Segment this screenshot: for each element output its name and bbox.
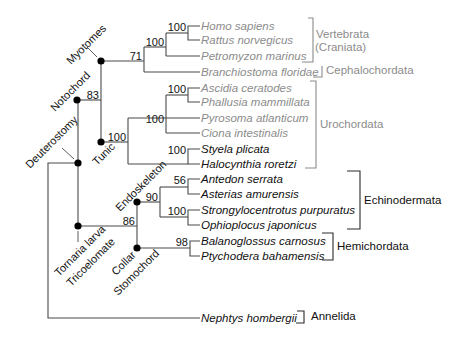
support-hemichordata: 98: [176, 236, 188, 248]
support-ascidia-phallusia: 100: [168, 83, 186, 95]
tip-ascidia-ceratodes: Ascidia ceratodes: [200, 82, 292, 94]
node-labels: Myotomes Notochord Deuterostomy Tunic En…: [23, 22, 169, 298]
tip-asterias-amurensis: Asterias amurensis: [200, 188, 299, 200]
bracket-urochordata: [305, 81, 316, 168]
support-styela-halocynthia: 100: [168, 144, 186, 156]
tip-ciona-intestinalis: Ciona intestinalis: [201, 127, 288, 139]
label-tunic: Tunic: [90, 140, 118, 168]
phylogenetic-tree: 100 100 71 83 100 100 100 100 56 90 100 …: [0, 0, 453, 340]
group-hemichordata: Hemichordata: [337, 240, 409, 252]
label-notochord: Notochord: [48, 69, 92, 113]
node-myotomes-dot: [97, 57, 104, 64]
support-antedon-asterias: 56: [174, 174, 186, 186]
tip-antedon-serrata: Antedon serrata: [200, 173, 283, 185]
tip-branchiostoma-floridae: Branchiostoma floridae: [201, 66, 319, 78]
support-notochord: 83: [87, 89, 99, 101]
group-cephalochordata: Cephalochordata: [326, 64, 414, 76]
group-urochordata: Urochordata: [320, 118, 384, 130]
support-uro-inner: 100: [146, 113, 164, 125]
group-echinodermata: Echinodermata: [364, 194, 442, 206]
node-notochord-dot: [73, 96, 80, 103]
branch-styela-halocynthia: [188, 149, 200, 164]
support-echinodermata: 90: [146, 191, 158, 203]
tip-strongylocentrotus-purpuratus: Strongylocentrotus purpuratus: [201, 204, 355, 216]
tip-homo-sapiens: Homo sapiens: [201, 20, 275, 32]
tip-ptychodera-bahamensis: Ptychodera bahamensis: [201, 250, 325, 262]
tip-ophioplocus-japonicus: Ophioplocus japonicus: [201, 219, 317, 231]
group-vertebrata: Vertebrata: [316, 28, 370, 40]
bracket-echinodermata: [347, 171, 360, 229]
tip-rattus-norvegicus: Rattus norvegicus: [201, 34, 293, 46]
tip-halocynthia-roretzi: Halocynthia roretzi: [201, 158, 297, 170]
node-collar-dot: [133, 244, 140, 251]
support-urochordata: 100: [108, 131, 126, 143]
tip-balanoglossus-carnosus: Balanoglossus carnosus: [201, 235, 326, 247]
branch-antedon-asterias: [188, 179, 200, 194]
branch-homo-rattus: [188, 26, 200, 40]
branch-strongylo-ophio: [188, 210, 200, 225]
label-deuterostomy: Deuterostomy: [23, 113, 80, 170]
tip-nephtys-hombergii: Nephtys hombergii: [201, 312, 297, 324]
branch-balano-ptycho: [190, 241, 200, 256]
group-annelida: Annelida: [311, 310, 356, 322]
tip-pyrosoma-atlanticum: Pyrosoma atlanticum: [201, 112, 309, 124]
branch-ascidia-phallusia: [188, 88, 200, 102]
group-craniata: (Craniata): [315, 41, 366, 53]
support-homo-rattus: 100: [168, 21, 186, 33]
node-tornaria-dot: [74, 222, 81, 229]
tip-petromyzon-marinus: Petromyzon marinus: [201, 50, 307, 62]
support-strongylo-ophio: 100: [168, 205, 186, 217]
node-deuterostomy-dot: [74, 159, 81, 166]
support-71: 71: [130, 50, 142, 62]
tip-styela-plicata: Styela plicata: [201, 143, 269, 155]
arrow-deuterostomy: [62, 148, 74, 159]
tip-phallusia-mammillata: Phallusia mammillata: [201, 96, 310, 108]
group-labels: Vertebrata (Craniata) Cephalochordata Ur…: [311, 28, 442, 322]
support-ambulacraria: 86: [123, 215, 135, 227]
bracket-annelida: [296, 311, 304, 323]
support-vertebrata: 100: [146, 36, 164, 48]
